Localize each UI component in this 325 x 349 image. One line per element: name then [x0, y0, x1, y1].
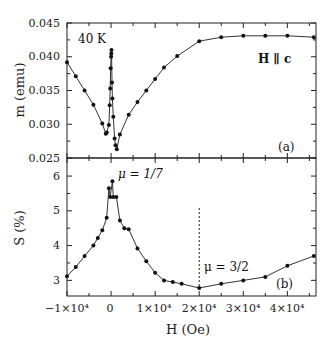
y-tick-label: 0.035 — [29, 84, 61, 97]
data-point — [74, 74, 78, 78]
data-point — [110, 179, 114, 183]
temperature-label: 40 K — [78, 32, 107, 46]
data-point — [107, 186, 111, 190]
panel-a-y-axis-title: m (emu) — [12, 63, 27, 118]
data-point — [83, 254, 87, 258]
data-line — [67, 181, 314, 288]
data-point — [136, 100, 140, 104]
data-point — [127, 227, 131, 231]
y-tick-label: 5 — [53, 204, 60, 217]
data-point — [162, 66, 166, 70]
x-axis-title: H (Oe) — [166, 322, 210, 337]
x-tick-label: 1×10⁴ — [137, 302, 172, 315]
data-point — [65, 274, 69, 278]
data-point — [65, 60, 69, 64]
data-point — [162, 278, 166, 282]
data-point — [110, 97, 114, 101]
y-tick-label: 0.030 — [29, 118, 61, 131]
panel-b-y-axis-title: S (%) — [12, 210, 27, 246]
data-point — [100, 228, 104, 232]
panel-b-frame — [67, 158, 316, 296]
data-point — [144, 89, 148, 93]
data-point — [263, 34, 267, 38]
mu-one-seventh-label: μ = 1/7 — [118, 167, 163, 181]
data-point — [108, 87, 112, 91]
data-point — [114, 195, 118, 199]
data-point — [153, 77, 157, 81]
data-point — [105, 130, 109, 134]
data-point — [74, 265, 78, 269]
x-tick-label: 3×10⁴ — [226, 302, 261, 315]
data-point — [118, 219, 122, 223]
data-point — [100, 122, 104, 126]
mu-three-halves-label: μ = 3/2 — [204, 260, 249, 274]
x-tick-labels: −1×10⁴ 0 1×10⁴ 2×10⁴ 3×10⁴ 4×10⁴ — [45, 302, 305, 315]
field-orientation-label: H ∥ c — [258, 52, 291, 66]
panel-b-series — [65, 179, 316, 290]
data-point — [180, 282, 184, 286]
data-point — [127, 113, 131, 117]
data-point — [91, 244, 95, 248]
data-point — [197, 39, 201, 43]
data-point — [197, 286, 201, 290]
panel-a-y-tick-labels: 0.045 0.040 0.035 0.030 0.025 — [29, 17, 61, 165]
data-point — [109, 51, 113, 55]
data-point — [83, 89, 87, 93]
x-tick-label: 0 — [107, 302, 114, 315]
data-point — [111, 115, 115, 119]
data-point — [110, 80, 114, 84]
panel-a-tag: (a) — [278, 140, 295, 154]
x-tick-label: 2×10⁴ — [182, 302, 217, 315]
data-point — [171, 280, 175, 284]
data-point — [110, 48, 114, 52]
y-tick-label: 6 — [53, 170, 60, 183]
data-point — [285, 264, 289, 268]
data-point — [105, 216, 109, 220]
y-tick-label: 0.045 — [29, 17, 61, 30]
data-point — [113, 136, 117, 140]
data-point — [114, 143, 118, 147]
data-point — [312, 254, 316, 258]
data-point — [263, 275, 267, 279]
data-point — [241, 278, 245, 282]
data-point — [241, 34, 245, 38]
x-tick-label: 4×10⁴ — [270, 302, 305, 315]
figure: 0.045 0.040 0.035 0.030 0.025 6 5 4 3 m … — [0, 0, 325, 349]
data-point — [153, 271, 157, 275]
y-tick-label: 3 — [53, 274, 60, 287]
data-point — [144, 259, 148, 263]
data-point — [118, 132, 122, 136]
panel-b-tag: (b) — [276, 277, 293, 291]
data-point — [312, 35, 316, 39]
data-point — [122, 226, 126, 230]
data-point — [175, 54, 179, 58]
data-point — [136, 246, 140, 250]
data-point — [219, 282, 223, 286]
data-point — [91, 103, 95, 107]
data-point — [109, 66, 113, 70]
y-tick-label: 4 — [53, 239, 60, 252]
data-point — [115, 147, 119, 151]
data-point — [107, 123, 111, 127]
x-tick-label: −1×10⁴ — [45, 302, 89, 315]
panel-b-y-tick-labels: 6 5 4 3 — [53, 170, 60, 287]
data-point — [108, 103, 112, 107]
y-tick-label: 0.025 — [29, 152, 61, 165]
data-point — [285, 34, 289, 38]
data-point — [219, 35, 223, 39]
y-tick-label: 0.040 — [29, 50, 61, 63]
data-point — [96, 236, 100, 240]
